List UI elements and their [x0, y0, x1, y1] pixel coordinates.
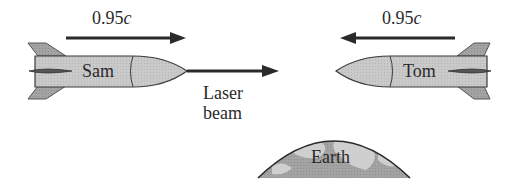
- earth: Earth: [258, 138, 410, 178]
- tom-rocket: Tom: [336, 43, 491, 99]
- laser-label-line1: Laser: [203, 83, 243, 103]
- earth-label: Earth: [311, 147, 350, 167]
- sam-bottom-fin-icon: [28, 86, 66, 99]
- relativity-diagram: Sam 0.95c Laser beam Tom 0.95c: [0, 0, 509, 187]
- laser-label-line2: beam: [203, 103, 242, 123]
- sam-rocket: Sam: [28, 43, 187, 99]
- sam-top-fin-icon: [28, 43, 66, 56]
- tom-velocity-arrow: [340, 32, 455, 44]
- tom-top-fin-icon: [457, 43, 490, 56]
- tom-name-label: Tom: [403, 61, 436, 81]
- sam-velocity-arrow: [66, 32, 186, 44]
- arrow-right-icon: [170, 32, 186, 44]
- arrow-left-icon: [340, 32, 356, 44]
- tom-bottom-fin-icon: [457, 86, 490, 99]
- sam-velocity-label: 0.95c: [92, 8, 132, 28]
- arrow-right-icon: [262, 65, 279, 77]
- sam-name-label: Sam: [82, 61, 114, 81]
- tom-velocity-label: 0.95c: [382, 8, 422, 28]
- laser-beam-arrow: [187, 65, 279, 77]
